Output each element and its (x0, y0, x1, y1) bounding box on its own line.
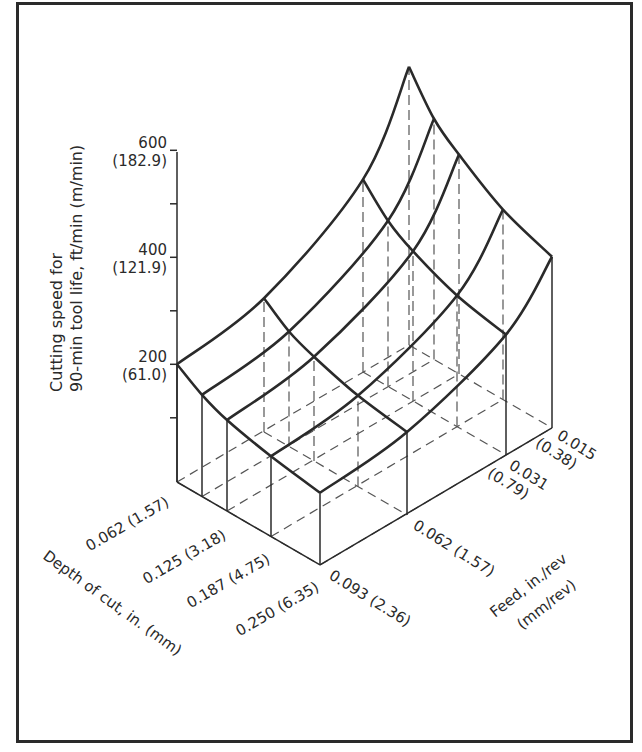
surface-feed-curve (227, 155, 459, 420)
surface-plot: 200(61.0)400(121.9)600(182.9)Cutting spe… (0, 0, 642, 752)
hidden-base-line (264, 432, 407, 515)
z-axis-label: Cutting speed for (47, 252, 66, 392)
hidden-base-line (271, 400, 503, 537)
z-tick-label: 200 (138, 348, 167, 366)
z-tick-metric: (121.9) (112, 259, 167, 277)
hidden-base-line (409, 345, 552, 428)
z-tick-metric: (61.0) (122, 366, 167, 384)
feed-tick-label: 0.093 (2.36) (326, 566, 414, 630)
z-tick-label: 600 (138, 134, 167, 152)
z-axis-label: 90-min tool life, ft/min (m/min) (67, 145, 86, 392)
surface-depth-curve (409, 67, 552, 257)
surface-feed-curve (271, 210, 503, 457)
hidden-base-line (227, 374, 459, 511)
z-tick-label: 400 (138, 241, 167, 259)
z-tick-metric: (182.9) (112, 152, 167, 170)
hidden-base-line (363, 372, 506, 455)
hidden-base-line (177, 345, 409, 482)
depth-tick-label: 0.062 (1.57) (83, 493, 172, 555)
depth-tick-label: 0.250 (6.35) (233, 578, 322, 640)
surface-depth-curve (177, 364, 320, 492)
feed-tick-label: 0.062 (1.57) (410, 516, 498, 580)
surface-feed-curve (177, 67, 409, 365)
